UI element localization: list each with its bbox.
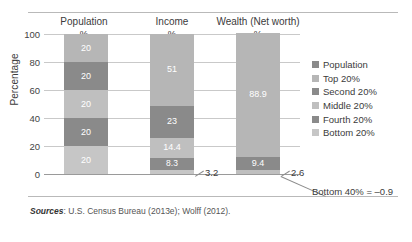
segment-population-top20: 20	[64, 34, 108, 62]
legend-swatch-icon	[312, 61, 319, 68]
segment-label: 20	[81, 100, 91, 109]
legend-swatch-icon	[312, 75, 319, 82]
segment-wealth-top20: 88.9	[236, 33, 280, 158]
figure-top-rule	[28, 12, 398, 13]
segment-population-middle20: 20	[64, 90, 108, 118]
legend-item-fourth-20[interactable]: Fourth 20%	[312, 112, 377, 126]
callout-income-bottom20: 3.2	[205, 167, 218, 178]
y-tick-60: 60	[10, 86, 40, 96]
y-tick-40: 40	[10, 114, 40, 124]
legend-swatch-icon	[312, 102, 319, 109]
legend-swatch-icon	[312, 88, 319, 95]
bar-wealth: 88.9 9.4	[236, 34, 280, 174]
callout-wealth-middle20: 2.6	[291, 167, 304, 178]
gridline-0	[44, 174, 300, 175]
y-tick-100: 100	[10, 30, 40, 40]
segment-population-second20: 20	[64, 62, 108, 90]
sources-label: Sources	[30, 206, 64, 216]
segment-income-fourth20: 8.3	[150, 158, 194, 170]
column-header-population-name: Population	[60, 16, 107, 27]
segment-label: 88.9	[249, 90, 267, 99]
segment-wealth-middle20	[236, 170, 280, 174]
column-header-income-name: Income	[156, 16, 189, 27]
segment-label: 20	[81, 72, 91, 81]
legend: Population Top 20% Second 20% Middle 20%…	[312, 58, 377, 140]
segment-label: 8.3	[166, 159, 178, 168]
legend-item-top-20[interactable]: Top 20%	[312, 72, 377, 86]
y-tick-0: 0	[10, 170, 40, 180]
column-header-wealth-name: Wealth (Net worth)	[216, 16, 299, 27]
segment-label: 51	[167, 65, 177, 74]
segment-income-bottom20	[150, 170, 194, 175]
segment-label: 20	[81, 156, 91, 165]
segment-label: 14.4	[163, 143, 181, 152]
segment-label: 9.4	[252, 159, 265, 168]
sources-text: : U.S. Census Bureau (2013e); Wolff (201…	[64, 206, 231, 216]
segment-wealth-second20: 9.4	[236, 157, 280, 170]
segment-population-bottom20: 20	[64, 146, 108, 174]
y-axis-ticks: 100 80 60 40 20 0	[0, 34, 40, 174]
legend-label: Middle 20%	[323, 100, 373, 111]
figure-container: Percentage 100 80 60 40 20 0 Population …	[0, 0, 412, 242]
segment-label: 23	[167, 117, 177, 126]
y-tick-20: 20	[10, 142, 40, 152]
callout-bottom40: Bottom 40% = –0.9	[312, 186, 393, 197]
legend-swatch-icon	[312, 116, 319, 123]
legend-label: Fourth 20%	[323, 114, 372, 125]
segment-income-top20: 51	[150, 34, 194, 105]
legend-item-second-20[interactable]: Second 20%	[312, 85, 377, 99]
legend-swatch-icon	[312, 129, 319, 136]
segment-population-fourth20: 20	[64, 118, 108, 146]
legend-item-population[interactable]: Population	[312, 58, 377, 72]
segment-income-middle20: 14.4	[150, 138, 194, 158]
legend-label: Bottom 20%	[323, 127, 375, 138]
legend-label: Second 20%	[323, 86, 377, 97]
segment-income-second20: 23	[150, 106, 194, 138]
segment-label: 20	[81, 128, 91, 137]
legend-item-middle-20[interactable]: Middle 20%	[312, 99, 377, 113]
bar-income: 51 23 14.4 8.3	[150, 34, 194, 174]
sources-line: Sources: U.S. Census Bureau (2013e); Wol…	[30, 206, 230, 216]
legend-item-bottom-20[interactable]: Bottom 20%	[312, 126, 377, 140]
plot-area: 20 20 20 20 20 51 23 14.4	[44, 34, 300, 174]
segment-label: 20	[81, 44, 91, 53]
bar-population: 20 20 20 20 20	[64, 34, 108, 174]
legend-label: Population	[323, 59, 368, 70]
y-tick-80: 80	[10, 58, 40, 68]
legend-label: Top 20%	[323, 73, 360, 84]
